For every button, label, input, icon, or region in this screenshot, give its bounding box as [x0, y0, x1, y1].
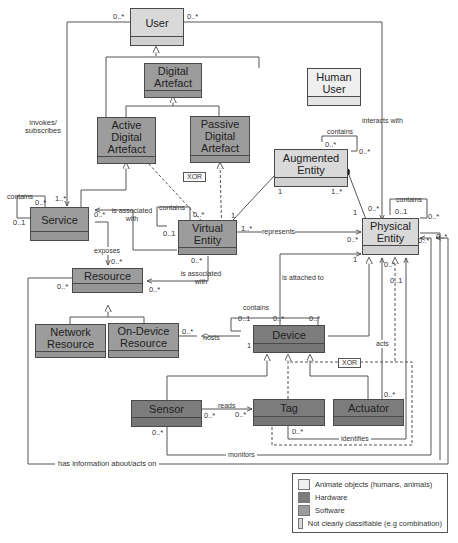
mult-user-left: 0..*	[113, 12, 124, 21]
legend-swatch	[298, 492, 310, 503]
mult-ae-ve: 1	[278, 187, 282, 196]
class-on-device-resource: On-Device Resource	[108, 323, 179, 358]
class-attributes	[334, 416, 403, 425]
class-attributes	[73, 283, 142, 292]
class-name: Virtual Entity	[179, 221, 236, 247]
class-network-resource: Network Resource	[35, 324, 106, 358]
class-name: Augmented Entity	[275, 150, 347, 177]
class-attributes	[308, 96, 360, 105]
class-actuator: Actuator	[333, 399, 404, 426]
label-is-associated-with-resource: is associated with	[176, 270, 226, 286]
class-name: On-Device Resource	[109, 324, 178, 350]
class-resource: Resource	[72, 268, 143, 293]
legend-label: Not clearly classifiable (e.g combinatio…	[308, 519, 442, 528]
class-attributes	[145, 90, 201, 97]
class-attributes	[31, 231, 88, 240]
class-name: Tag	[254, 400, 324, 416]
mult-service-invoke: 1..*	[55, 194, 66, 203]
class-attributes	[363, 245, 418, 254]
class-attributes	[109, 350, 178, 357]
mult-ae-self-1: 0..*	[325, 140, 336, 149]
label-exposes: exposes	[94, 247, 120, 255]
mult-pe-self-2: 0..*	[428, 212, 439, 221]
class-attributes	[132, 417, 201, 426]
mult-ae-pe: 1..*	[331, 187, 342, 196]
class-name: Actuator	[334, 400, 403, 416]
class-name: User	[131, 9, 183, 36]
xor-constraint-artefact: XOR	[183, 172, 206, 182]
legend-item-mixed: Not clearly classifiable (e.g combinatio…	[298, 517, 442, 530]
legend-item-animate: Animate objects (humans, animals)	[298, 478, 442, 491]
legend-label: Animate objects (humans, animals)	[315, 480, 432, 489]
label-contains-device: contains	[243, 304, 269, 312]
mult-user-right: 0..*	[187, 12, 198, 21]
mult-ae-self-2: 0..*	[359, 147, 370, 156]
label-monitors: monitors	[226, 451, 257, 459]
mult-pe-interacts: 0..*	[368, 204, 379, 213]
class-name: Physical Entity	[363, 219, 418, 245]
class-name: Human User	[308, 69, 360, 96]
class-passive-digital-artefact: Passive Digital Artefact	[190, 116, 250, 163]
label-identifies: identifies	[339, 435, 371, 443]
mult-pe-below-1: 0..*	[384, 260, 395, 269]
label-acts: acts	[376, 340, 389, 348]
mult-actuator-acts: 0..*	[384, 390, 395, 399]
legend-label: Hardware	[315, 493, 348, 502]
mult-pe-self-1: 0..1	[395, 207, 408, 216]
class-attributes	[254, 416, 324, 425]
class-user: User	[130, 8, 184, 46]
mult-pe-right-1: 0..*	[418, 236, 429, 245]
legend-item-hardware: Hardware	[298, 491, 442, 504]
legend-swatch	[298, 518, 303, 529]
class-name: Passive Digital Artefact	[191, 117, 249, 155]
xor-constraint-device: XOR	[338, 358, 361, 368]
mult-ve-ae: 1	[231, 211, 235, 220]
class-attributes	[179, 247, 236, 254]
mult-device-contains-2: 0..*	[273, 314, 284, 323]
class-attributes	[131, 36, 183, 45]
class-virtual-entity: Virtual Entity	[178, 220, 237, 255]
class-attributes	[98, 156, 155, 163]
mult-ve-contains-2: 0..1	[163, 229, 176, 238]
mult-tag-identifies: 0..*	[292, 427, 303, 436]
mult-sensor-reads: 0..*	[204, 411, 215, 420]
class-sensor: Sensor	[131, 400, 202, 427]
mult-sensor-monitors: 0..*	[152, 428, 163, 437]
class-name: Device	[254, 326, 324, 343]
class-attributes	[275, 177, 347, 186]
legend-swatch	[298, 479, 310, 490]
label-represents: represents	[262, 228, 295, 236]
legend-swatch	[298, 505, 310, 516]
mult-device-attached: 0..*	[309, 314, 320, 323]
mult-service-assoc: 0..*	[94, 210, 105, 219]
class-name: Network Resource	[36, 325, 105, 351]
label-contains-service: contains	[7, 193, 33, 201]
class-service: Service	[30, 207, 89, 241]
class-tag: Tag	[253, 399, 325, 426]
class-augmented-entity: Augmented Entity	[274, 149, 348, 187]
mult-ve-represents: 1..*	[241, 224, 252, 233]
mult-pe-below-2: 0..1	[390, 276, 403, 285]
label-contains-physical: contains	[396, 196, 422, 204]
class-attributes	[36, 351, 105, 357]
label-interacts-with: interacts with	[362, 117, 403, 125]
class-name: Sensor	[132, 401, 201, 417]
class-human-user: Human User	[307, 68, 361, 106]
class-digital-artefact: Digital Artefact	[144, 63, 202, 98]
mult-pe-ae: 1	[353, 208, 357, 217]
mult-service-exposes: 0..*	[111, 257, 122, 266]
mult-ondevice-hosts: 0..*	[182, 327, 193, 336]
mult-pe-represents: 0..*	[347, 235, 358, 244]
class-attributes	[191, 155, 249, 162]
legend-label: Software	[315, 506, 345, 515]
label-is-associated-with-service: is associated with	[107, 207, 157, 223]
class-name: Digital Artefact	[145, 64, 201, 90]
mult-ve-contains-1: 0..*	[193, 210, 204, 219]
label-has-information-about: has information about/acts on	[55, 460, 159, 468]
class-attributes	[254, 343, 324, 352]
mult-resource-right: 0..*	[149, 285, 160, 294]
class-name: Active Digital Artefact	[98, 118, 155, 156]
legend: Animate objects (humans, animals) Hardwa…	[292, 473, 448, 533]
label-is-attached-to: is attached to	[282, 274, 324, 282]
class-name: Service	[31, 208, 88, 231]
